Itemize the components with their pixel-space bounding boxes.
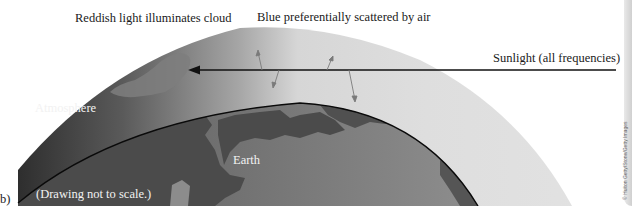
atmosphere-label: Atmosphere bbox=[35, 101, 96, 116]
photo-credit-text: © Hulton Getty/Stone/Getty Images bbox=[622, 122, 628, 200]
sunlight-label: Sunlight (all frequencies) bbox=[493, 51, 620, 66]
panel-label: b) bbox=[0, 192, 10, 206]
scale-note-label: (Drawing not to scale.) bbox=[36, 187, 151, 202]
earth-label: Earth bbox=[233, 153, 260, 168]
photo-credit-strip: © Hulton Getty/Stone/Getty Images bbox=[624, 0, 632, 206]
reddish-light-label: Reddish light illuminates cloud bbox=[75, 11, 235, 26]
blue-scattered-label: Blue preferentially scattered by air bbox=[257, 10, 431, 25]
